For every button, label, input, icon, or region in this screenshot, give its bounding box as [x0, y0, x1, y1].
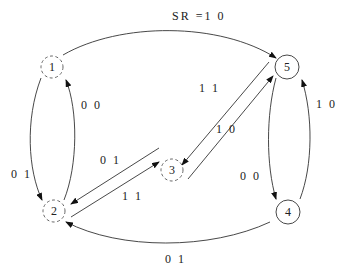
edge-label-3-to-2: 0 1: [100, 153, 121, 167]
edge-label-1-to-5: SR =1 0: [172, 9, 225, 23]
edge-5-to-4: [269, 78, 277, 199]
node-2: 2: [43, 200, 65, 222]
edge-label-4-to-2: 0 1: [165, 252, 186, 266]
edge-5-to-3: [182, 62, 269, 165]
node-1-label: 1: [49, 60, 55, 74]
edge-label-4-to-5: 1 0: [316, 97, 337, 111]
edge-label-2-to-1: 0 0: [81, 98, 102, 112]
node-3-label: 3: [169, 163, 175, 177]
node-4: 4: [276, 200, 300, 224]
node-4-label: 4: [285, 205, 291, 219]
node-3: 3: [161, 159, 183, 181]
edge-2-to-3: [71, 162, 159, 217]
edge-label-1-to-2: 0 1: [11, 167, 32, 181]
edge-label-2-to-3: 1 1: [122, 189, 143, 203]
edge-1-to-5: [63, 31, 276, 58]
edge-label-5-to-3: 1 1: [199, 81, 220, 95]
node-2-label: 2: [51, 204, 57, 218]
edge-label-5-to-4: 0 0: [240, 169, 261, 183]
edge-4-to-2: [66, 222, 270, 243]
edge-4-to-5: [300, 80, 310, 199]
state-diagram: SR =1 0 0 1 0 0 1 1 1 0 0 1 1 1 0 0 1 0 …: [0, 0, 346, 274]
node-1: 1: [41, 56, 63, 78]
node-5: 5: [275, 55, 299, 79]
edge-2-to-1: [64, 80, 75, 200]
edge-label-3-to-5: 1 0: [216, 122, 237, 136]
edge-1-to-2: [30, 78, 42, 200]
node-5-label: 5: [284, 60, 290, 74]
